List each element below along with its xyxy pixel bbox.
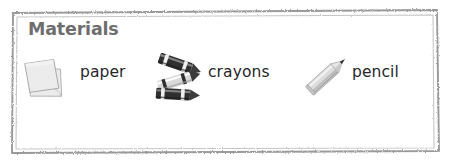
list-item-crayons: crayons	[148, 48, 298, 108]
pencil-icon	[296, 48, 354, 106]
list-item-paper: paper	[20, 48, 150, 108]
materials-list: paper	[20, 48, 432, 108]
crayons-icon	[152, 48, 210, 106]
list-item-label: paper	[80, 65, 126, 81]
list-item-label: crayons	[208, 65, 270, 81]
paper-stack-icon	[20, 48, 78, 106]
materials-panel: Materials	[0, 0, 450, 162]
page-title: Materials	[28, 21, 119, 39]
list-item-label: pencil	[352, 65, 399, 81]
list-item-pencil: pencil	[292, 48, 432, 108]
